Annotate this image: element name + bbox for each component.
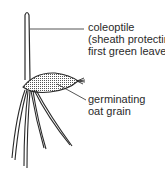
coleoptile-label-line-2: (sheath protecting [88,33,165,45]
oat-grain [23,73,78,93]
grain-label-line-1: germinating [88,93,145,105]
grain-tuft [77,78,85,84]
grain-label-line-2: oat grain [88,105,145,117]
grain-leader-line [57,84,86,100]
coleoptile-label: coleoptile (sheath protecting first gree… [88,21,165,57]
coleoptile-stem [25,13,30,81]
roots [12,90,72,168]
coleoptile-label-line-1: coleoptile [88,21,165,33]
grain-label: germinating oat grain [88,93,145,117]
coleoptile-label-line-3: first green leaves) [88,45,165,57]
